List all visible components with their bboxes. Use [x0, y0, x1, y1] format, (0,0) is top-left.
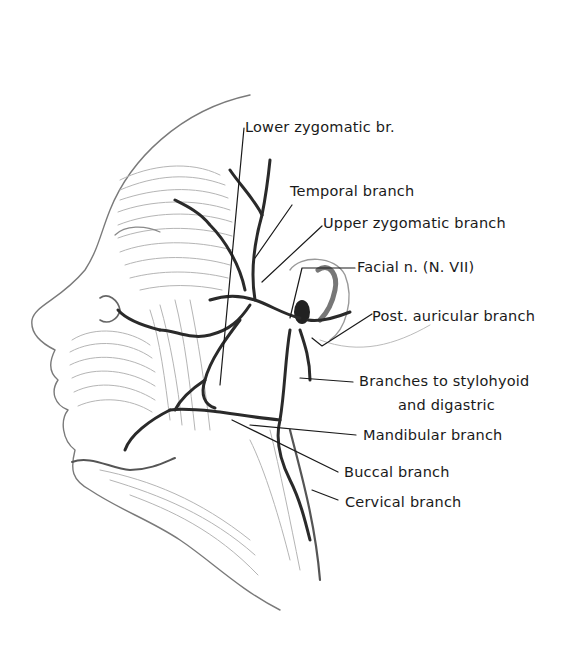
- label-and-digastric: and digastric: [398, 397, 495, 414]
- facial-nerve-illustration: Lower zygomatic br. Temporal branch Uppe…: [0, 0, 571, 650]
- label-temporal-branch: Temporal branch: [290, 183, 414, 200]
- label-branches-stylohyoid: Branches to stylohyoid: [359, 373, 529, 390]
- head-drawing: [0, 0, 571, 650]
- label-mandibular-branch: Mandibular branch: [363, 427, 503, 444]
- mouth-sketch: [72, 458, 175, 470]
- eye-sketch: [115, 227, 160, 235]
- label-lower-zygomatic-branch: Lower zygomatic br.: [245, 119, 395, 136]
- neck-sketch: [290, 430, 320, 580]
- head-outline: [32, 95, 280, 610]
- label-post-auricular-branch: Post. auricular branch: [372, 308, 535, 325]
- label-cervical-branch: Cervical branch: [345, 494, 462, 511]
- nerve-branches: [118, 160, 350, 540]
- label-facial-nerve: Facial n. (N. VII): [357, 259, 474, 276]
- label-upper-zygomatic-branch: Upper zygomatic branch: [323, 215, 506, 232]
- label-buccal-branch: Buccal branch: [344, 464, 450, 481]
